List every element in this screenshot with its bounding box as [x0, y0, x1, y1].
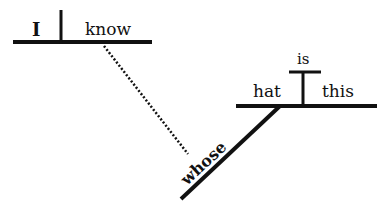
relative-subject-word: hat	[253, 81, 281, 101]
main-verb-word: know	[85, 19, 131, 39]
dotted-connector-line	[104, 46, 188, 154]
predicate-above-word: is	[297, 50, 310, 68]
modifier-slant-line	[181, 106, 280, 199]
sentence-diagram: I know is hat this whose	[0, 0, 381, 211]
relative-verb-word: this	[322, 81, 354, 101]
main-subject-word: I	[32, 19, 40, 40]
modifier-word: whose	[176, 137, 230, 189]
